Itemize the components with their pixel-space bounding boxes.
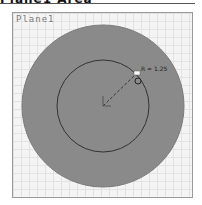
page-heading: Plane1 Area xyxy=(0,0,195,4)
sketch-canvas[interactable] xyxy=(13,13,192,197)
dimension-label[interactable]: R = 1.25 xyxy=(141,65,167,72)
sketch-viewport[interactable]: Plane1 R = 1.25 xyxy=(12,12,193,198)
plane-label: Plane1 xyxy=(16,14,55,24)
dimension-anchor-icon xyxy=(134,71,140,75)
